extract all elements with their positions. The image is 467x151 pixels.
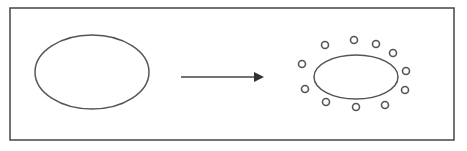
particle-circle — [403, 68, 410, 75]
particle-circle — [373, 41, 380, 48]
particle-circle — [402, 87, 409, 94]
particle-circle — [302, 86, 309, 93]
particle-circle — [353, 104, 360, 111]
diagram-frame — [10, 8, 454, 140]
diagram-canvas — [0, 0, 467, 151]
large-ellipse — [35, 35, 149, 109]
small-ellipse — [314, 55, 398, 99]
particle-circle — [323, 99, 330, 106]
particle-circle — [382, 102, 389, 109]
particle-circle — [322, 42, 329, 49]
particle-circle — [299, 61, 306, 68]
particle-circle — [351, 37, 358, 44]
particle-circle — [390, 50, 397, 57]
